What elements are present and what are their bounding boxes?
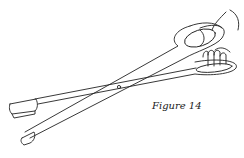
figure-canvas: Figure 14 <box>0 0 244 158</box>
figure-caption: Figure 14 <box>152 100 202 111</box>
tongs-illustration <box>0 0 244 158</box>
